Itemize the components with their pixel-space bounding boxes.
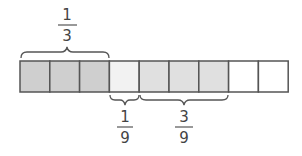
fraction-diagram: 1 3 1 9 3 9	[0, 0, 302, 156]
bar-cell-9	[258, 61, 288, 92]
fraction-bar	[20, 61, 288, 92]
bar-cell-1	[20, 61, 50, 92]
bar-cell-7	[199, 61, 229, 92]
bar-cell-6	[169, 61, 199, 92]
top-fraction-denominator: 3	[62, 27, 72, 45]
bar-cell-8	[229, 61, 259, 92]
top-brace	[21, 47, 109, 58]
bottom-right-fraction-numerator: 3	[179, 108, 189, 126]
bar-cell-2	[50, 61, 80, 92]
bottom-left-fraction-denominator: 9	[120, 129, 130, 147]
bar-cell-3	[80, 61, 110, 92]
bottom-left-fraction-numerator: 1	[120, 108, 130, 126]
bottom-left-brace	[110, 95, 139, 105]
bar-cell-4	[109, 61, 139, 92]
top-fraction-numerator: 1	[62, 6, 72, 24]
bottom-right-brace	[140, 95, 228, 105]
bar-cell-5	[139, 61, 169, 92]
bottom-right-fraction-denominator: 9	[179, 129, 189, 147]
